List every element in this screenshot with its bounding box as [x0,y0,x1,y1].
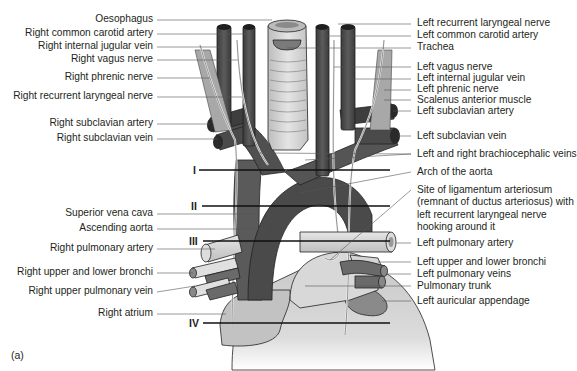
label-left-upper-lower-bronchi: Left upper and lower bronchi [417,256,546,268]
right-bronchi-veins [190,258,241,300]
label-left-common-carotid-artery: Left common carotid artery [417,29,538,41]
label-left-auricular-appendage: Left auricular appendage [417,295,530,307]
label-right-vagus-nerve: Right vagus nerve [71,53,153,65]
label-right-pulmonary-artery: Right pulmonary artery [50,242,153,254]
label-right-subclavian-artery: Right subclavian artery [49,117,153,129]
label-right-atrium: Right atrium [98,307,153,319]
label-brachiocephalic-veins: Left and right brachiocephalic veins [417,148,577,160]
label-left-subclavian-vein: Left subclavian vein [417,130,506,142]
label-left-pulmonary-veins: Left pulmonary veins [417,268,511,280]
label-pulmonary-trunk: Pulmonary trunk [417,280,491,292]
label-left-subclavian-artery: Left subclavian artery [417,105,514,117]
label-left-recurrent-laryngeal-nerve: Left recurrent laryngeal nerve [417,17,550,29]
left-internal-jugular-vein [341,26,355,130]
label-right-upper-lower-bronchi: Right upper and lower bronchi [17,266,153,278]
label-right-recurrent-laryngeal-nerve: Right recurrent laryngeal nerve [13,90,153,102]
label-right-subclavian-vein: Right subclavian vein [57,132,153,144]
right-common-carotid-artery [243,26,255,146]
level-numeral-i: I [193,164,196,176]
level-numeral-ii: II [191,200,197,212]
level-numeral-iii: III [189,235,198,247]
label-right-phrenic-nerve: Right phrenic nerve [65,71,153,83]
label-superior-vena-cava: Superior vena cava [65,207,153,219]
level-numeral-iv: IV [189,317,199,329]
label-ascending-aorta: Ascending aorta [79,222,153,234]
label-right-upper-pulmonary-vein: Right upper pulmonary vein [28,285,153,297]
label-oesophagus: Oesophagus [95,13,153,25]
left-pulmonary-artery [300,232,392,252]
label-ligamentum-arteriosum: Site of ligamentum arteriosum (remnant o… [417,184,577,234]
trachea [268,20,308,150]
label-left-pulmonary-artery: Left pulmonary artery [417,237,513,249]
label-right-common-carotid-artery: Right common carotid artery [25,27,153,39]
label-trachea: Trachea [417,41,454,53]
label-right-internal-jugular-vein: Right internal jugular vein [38,40,153,52]
figure-caption: (a) [11,349,24,361]
label-arch-of-aorta: Arch of the aorta [417,166,492,178]
